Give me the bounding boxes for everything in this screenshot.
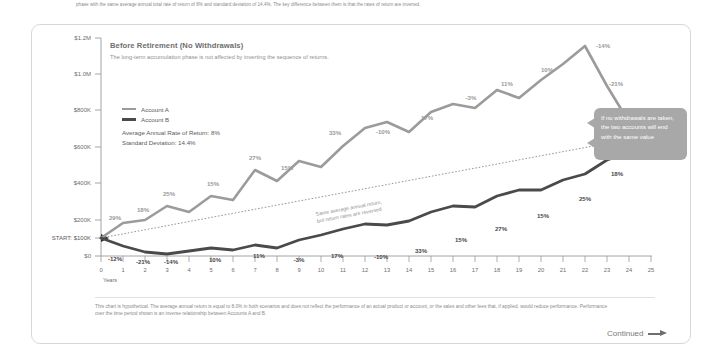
rate-label-a: 11% xyxy=(501,80,513,87)
callout-box: If no withdrawals are taken, the two acc… xyxy=(594,108,687,160)
rate-label-b: -21% xyxy=(136,258,151,265)
x-tick-label: 9 xyxy=(297,267,300,273)
x-tick-label: 18 xyxy=(494,267,500,273)
x-tick-label: 10 xyxy=(318,267,324,273)
rate-label-a: 15% xyxy=(207,180,220,187)
legend-swatch-icon xyxy=(122,108,136,110)
rate-label-a: 27% xyxy=(249,154,262,161)
rate-label-b: -3% xyxy=(294,256,305,263)
x-tick-label: 2 xyxy=(143,267,146,273)
rate-label-b: 25% xyxy=(579,195,592,202)
x-axis-title: Years xyxy=(103,277,117,283)
x-tick-label: 15 xyxy=(428,267,434,273)
diagonal-note: Same average annual return, but return r… xyxy=(315,199,383,224)
rate-label-b: 33% xyxy=(415,247,428,254)
legend-item-account-a: Account A xyxy=(122,104,169,114)
x-tick-label: 16 xyxy=(450,267,456,273)
x-tick-label: 20 xyxy=(538,267,544,273)
footnote-text: This chart is hypothetical. The average … xyxy=(95,303,615,318)
legend-item-account-b: Account B xyxy=(122,114,169,124)
legend-swatch-icon xyxy=(122,118,136,121)
x-tick-label: 14 xyxy=(406,267,413,273)
chart-subtitle: The long-term accumulation phase is not … xyxy=(110,54,329,60)
chart-legend: Account A Account B xyxy=(122,104,169,124)
x-tick-label: 19 xyxy=(516,267,522,273)
x-tick-label: 23 xyxy=(604,267,610,273)
arrow-right-icon xyxy=(648,330,668,337)
x-tick-label: 7 xyxy=(253,267,256,273)
rate-label-b: 15% xyxy=(455,236,468,243)
rate-label-a: 25% xyxy=(163,190,176,197)
rate-label-a: 17% xyxy=(421,114,434,121)
rate-label-a: -10% xyxy=(376,128,391,135)
x-tick-label: 17 xyxy=(472,267,478,273)
y-axis-ticks: $1.2M $1.0M $800K $600K $400K $200K STAR… xyxy=(52,35,109,259)
stat-standard-deviation: Standard Deviation: 14.4% xyxy=(122,138,220,148)
chart-stats: Average Annual Rate of Return: 8% Standa… xyxy=(122,128,220,148)
legend-label: Account A xyxy=(141,106,169,113)
chart-svg: $1.2M $1.0M $800K $600K $400K $200K STAR… xyxy=(31,24,691,344)
y-start-label: START: $100K xyxy=(52,235,91,241)
x-tick-label: 6 xyxy=(231,267,234,273)
rate-label-b: 18% xyxy=(611,170,624,177)
chart-title: Before Retirement (No Withdrawals) xyxy=(110,41,243,50)
x-tick-label: 8 xyxy=(275,267,278,273)
x-tick-label: 13 xyxy=(384,267,390,273)
y-tick-label: $800K xyxy=(74,107,91,113)
rate-label-b: -12% xyxy=(108,255,123,262)
rate-label-b: 11% xyxy=(253,252,265,259)
x-tick-label: 4 xyxy=(187,267,191,273)
chart-canvas: $1.2M $1.0M $800K $600K $400K $200K STAR… xyxy=(31,24,691,344)
x-tick-label: 25 xyxy=(648,267,654,273)
rate-label-b: 10% xyxy=(209,256,222,263)
x-tick-label: 11 xyxy=(340,267,346,273)
x-tick-label: 5 xyxy=(209,267,212,273)
rate-label-a: 10% xyxy=(541,66,554,73)
rate-label-a: -3% xyxy=(466,94,477,101)
x-tick-label: 24 xyxy=(626,267,633,273)
continued-label: Continued xyxy=(607,329,643,338)
rate-label-a: 29% xyxy=(109,214,122,221)
rate-label-a: 15% xyxy=(281,164,294,171)
y-tick-label: $200K xyxy=(74,217,91,223)
x-tick-label: 22 xyxy=(582,267,588,273)
stat-average-return: Average Annual Rate of Return: 8% xyxy=(122,128,220,138)
footnote-divider xyxy=(95,297,655,298)
y-tick-label: $1.2M xyxy=(74,35,91,41)
x-tick-label: 3 xyxy=(165,267,168,273)
intro-paragraph: phase with the same average annual total… xyxy=(76,1,706,8)
rate-label-b: -14% xyxy=(164,258,179,265)
rate-label-a: 33% xyxy=(329,129,342,136)
x-tick-label: 21 xyxy=(560,267,566,273)
x-tick-label: 0 xyxy=(99,267,102,273)
rate-label-b: 15% xyxy=(537,212,550,219)
rate-label-b: 17% xyxy=(331,252,344,259)
y-tick-label: $1.0M xyxy=(74,71,91,77)
legend-label: Account B xyxy=(141,116,169,123)
y-tick-label: $0 xyxy=(84,253,91,259)
rate-label-a: -21% xyxy=(609,80,624,87)
continued-link[interactable]: Continued xyxy=(607,329,668,338)
rate-label-a: 18% xyxy=(137,206,150,213)
y-tick-label: $400K xyxy=(74,180,91,186)
x-tick-label: 1 xyxy=(121,267,124,273)
rate-label-b: 27% xyxy=(495,225,508,232)
rate-label-b: -10% xyxy=(374,253,389,260)
y-tick-label: $600K xyxy=(74,144,91,150)
rate-label-a: -14% xyxy=(596,42,611,49)
callout-text: If no withdrawals are taken, the two acc… xyxy=(601,115,674,140)
x-tick-label: 12 xyxy=(362,267,368,273)
